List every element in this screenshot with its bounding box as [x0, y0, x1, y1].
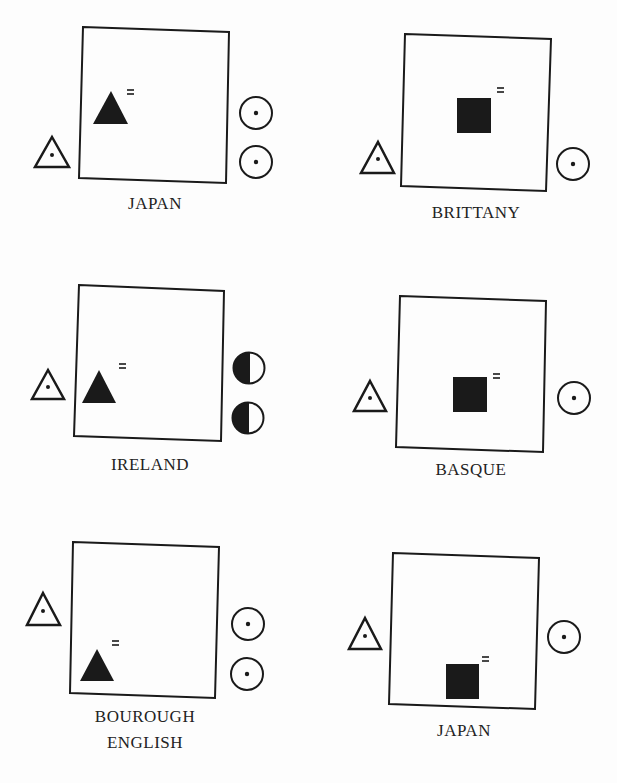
panel-label-brittany: BRITTANY [416, 199, 536, 226]
dotted-triangle-icon [35, 137, 69, 167]
panel-label-basque: BASQUE [411, 456, 531, 483]
dotted-triangle-icon [354, 381, 386, 411]
diagram-graphics [0, 0, 617, 783]
household-square [74, 285, 224, 441]
household-square [396, 296, 546, 452]
equals-mark [112, 641, 119, 645]
heir-filled-square-icon [453, 377, 487, 412]
dotted-circle-icon [558, 382, 590, 414]
heir-filled-triangle-icon [93, 91, 128, 124]
dotted-circle-icon [240, 97, 272, 129]
heir-filled-triangle-icon [80, 649, 114, 681]
equals-mark [493, 374, 500, 378]
equals-mark [119, 364, 126, 368]
dotted-triangle-icon [32, 370, 64, 399]
dotted-triangle-icon [361, 142, 394, 173]
dotted-circle-icon [557, 148, 589, 180]
heir-filled-square-icon [457, 98, 491, 133]
panel-label-japan-2: JAPAN [404, 717, 524, 744]
heir-filled-square-icon [446, 664, 479, 699]
inheritance-diagram: JAPAN BRITTANY IRELAND BASQUE BOUROUGH E… [0, 0, 617, 783]
equals-mark [482, 657, 489, 661]
panel-bourough-english [27, 542, 264, 698]
dotted-triangle-icon [349, 618, 381, 649]
panel-label-bourough: BOUROUGH [70, 703, 220, 730]
half-filled-circle-icon [234, 352, 265, 384]
dotted-circle-icon [548, 621, 580, 653]
panel-japan-2 [349, 553, 580, 709]
panel-label-english: ENGLISH [70, 729, 220, 756]
panel-label-japan-1: JAPAN [100, 190, 210, 217]
dotted-circle-icon [240, 146, 272, 178]
heir-filled-triangle-icon [82, 370, 116, 403]
panel-label-ireland: IRELAND [90, 451, 210, 478]
equals-mark [127, 90, 134, 94]
household-square [79, 27, 229, 183]
panel-brittany [361, 34, 589, 191]
half-filled-circle-icon [233, 402, 264, 434]
dotted-circle-icon [231, 658, 263, 690]
panel-basque [354, 296, 590, 452]
dotted-circle-icon [232, 608, 264, 640]
equals-mark [497, 88, 504, 92]
panel-ireland [32, 285, 265, 441]
panel-japan-1 [35, 27, 272, 183]
dotted-triangle-icon [27, 593, 60, 625]
